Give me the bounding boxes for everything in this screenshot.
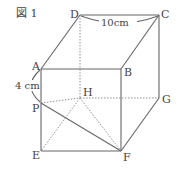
edge-DA <box>41 15 80 69</box>
vertex-label-E: E <box>32 149 40 162</box>
vertex-label-P: P <box>32 102 40 115</box>
vertex-label-B: B <box>124 66 132 79</box>
vertex-label-F: F <box>123 151 131 164</box>
vertex-label-G: G <box>162 93 171 106</box>
dimension-side-label: 4 cm <box>15 80 40 91</box>
edge-GF <box>121 98 159 151</box>
vertex-label-H: H <box>83 86 93 99</box>
visible-edges <box>41 15 159 151</box>
vertex-label-A: A <box>31 60 41 73</box>
cuboid-diagram: 図 1 10cm 4 cm D C A B H G P E F <box>0 0 178 171</box>
segment-HF <box>80 98 121 151</box>
segment-PF <box>41 103 121 151</box>
vertex-label-D: D <box>70 8 79 21</box>
figure-title: 図 1 <box>16 7 38 20</box>
hidden-edges <box>41 15 159 151</box>
dimension-top-label: 10cm <box>101 17 129 28</box>
vertex-label-C: C <box>161 8 169 21</box>
segment-PH <box>41 98 80 103</box>
